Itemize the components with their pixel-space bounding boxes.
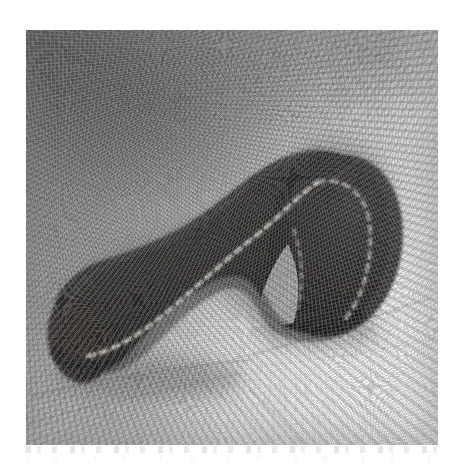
scan-artifact-band [26, 446, 438, 466]
ghost-mark-row-2 [26, 455, 438, 462]
photograph-plate [26, 30, 438, 445]
film-grain-light [26, 30, 438, 445]
figure-caption [0, 0, 1, 1]
figure-root [0, 0, 462, 469]
ghost-mark-row-1 [26, 446, 438, 453]
